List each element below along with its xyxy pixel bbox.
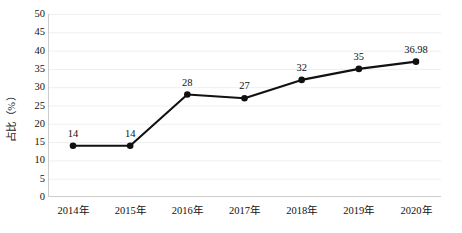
x-axis-tick-label: 2020年 [401, 202, 432, 217]
y-axis-tick-label: 30 [21, 82, 45, 93]
data-point-marker [298, 77, 305, 84]
plot-area: 14142827323536.98 [48, 14, 441, 197]
x-axis-tick-label: 2016年 [172, 202, 203, 217]
y-axis-tick-label: 25 [21, 100, 45, 111]
data-markers [70, 58, 420, 149]
data-point-marker [184, 91, 191, 98]
y-axis-tick-label: 45 [21, 27, 45, 38]
data-point-label: 36.98 [404, 44, 428, 55]
data-point-marker [70, 142, 77, 149]
data-point-marker [127, 142, 134, 149]
y-axis-tick-label: 10 [21, 155, 45, 166]
plot-svg [48, 14, 441, 197]
y-axis-tick-label: 50 [21, 9, 45, 20]
y-axis-tick-label: 40 [21, 45, 45, 56]
y-axis-title-text: 占比（%） [4, 91, 19, 142]
x-axis-tick-label: 2017年 [229, 202, 260, 217]
x-axis-tick-label: 2014年 [58, 202, 89, 217]
x-axis-tick-label: 2015年 [115, 202, 146, 217]
y-axis-tick-label: 0 [21, 192, 45, 203]
line-chart: 占比（%） 05101520253035404550 1414282732353… [0, 0, 462, 233]
x-axis-tick-label: 2019年 [343, 202, 374, 217]
y-axis-tick-label: 35 [21, 64, 45, 75]
x-axis-tick-label: 2018年 [286, 202, 317, 217]
data-point-marker [356, 66, 363, 73]
data-point-label: 27 [239, 81, 250, 92]
y-axis-title: 占比（%） [0, 0, 22, 233]
data-point-marker [413, 58, 420, 65]
data-point-label: 14 [68, 128, 79, 139]
y-axis-tick-label: 5 [21, 173, 45, 184]
data-point-label: 32 [296, 62, 307, 73]
data-point-label: 28 [182, 77, 193, 88]
data-point-label: 35 [354, 51, 365, 62]
data-point-marker [241, 95, 248, 102]
data-point-label: 14 [125, 128, 136, 139]
y-axis-tick-label: 15 [21, 137, 45, 148]
y-axis-tick-label: 20 [21, 119, 45, 130]
y-axis-tick-labels: 05101520253035404550 [20, 0, 45, 233]
